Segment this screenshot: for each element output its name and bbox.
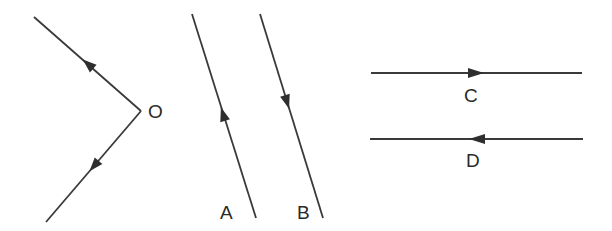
label-b: B [297,202,310,223]
label-c: C [464,85,478,106]
line-b [260,14,323,218]
line-d-group: D [370,134,583,171]
arrow-down-icon [280,94,294,110]
line-b-group: B [260,14,323,223]
direction-diagram: O A B C D [0,0,612,231]
arrow-right-icon [468,68,484,78]
line-c-group: C [371,68,582,106]
line-a-group: A [192,14,256,223]
label-a: A [220,202,233,223]
arrow-left-icon [469,134,485,144]
vertex-o-group: O [34,17,163,222]
label-o: O [148,101,163,122]
arrow-up-icon [216,106,230,122]
label-d: D [466,150,480,171]
